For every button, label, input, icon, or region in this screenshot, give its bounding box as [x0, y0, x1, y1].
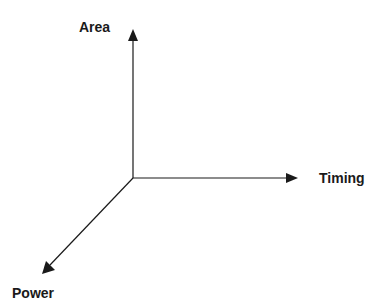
area-arrow-icon [128, 29, 138, 41]
power-axis-label: Power [12, 286, 54, 300]
timing-axis-label: Timing [319, 171, 365, 185]
power-axis-line [50, 178, 133, 265]
axes-diagram [0, 0, 384, 308]
timing-arrow-icon [286, 173, 298, 183]
power-arrow-icon [42, 261, 55, 274]
area-axis-label: Area [79, 20, 110, 34]
